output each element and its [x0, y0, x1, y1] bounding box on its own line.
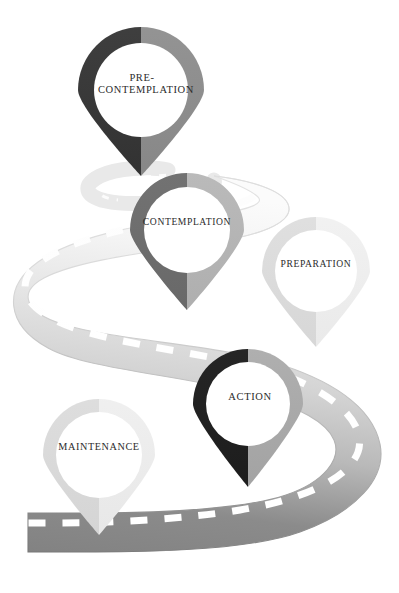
road-and-pins-graphic [0, 0, 399, 593]
pin-center-disc [206, 362, 290, 446]
pin-center-disc [56, 412, 142, 498]
pin-center-disc [275, 230, 357, 312]
pin-center-disc [144, 187, 230, 273]
pin-preparation[interactable] [254, 205, 380, 360]
stages-of-change-diagram: PRE- CONTEMPLATION CONTEMPLATION PREPARA… [0, 0, 399, 593]
pin-center-disc [94, 43, 188, 137]
pin-pre-contemplation[interactable] [70, 20, 216, 190]
